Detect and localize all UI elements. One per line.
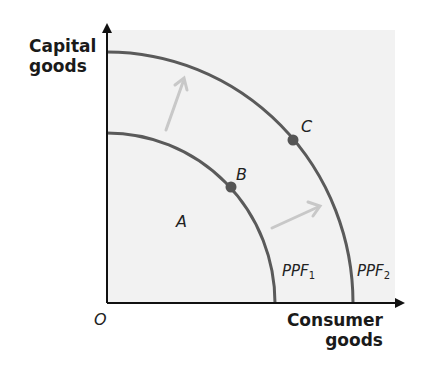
ppf1-label: PPF1 <box>282 262 315 281</box>
plot-background <box>107 30 395 303</box>
point-b-label: B <box>236 165 247 184</box>
y-axis-title-line2: goods <box>29 56 96 76</box>
x-axis-title-line2: goods <box>287 330 383 350</box>
ppf2-label-sub: 2 <box>384 270 390 281</box>
point-c-label: C <box>301 117 312 136</box>
y-axis-title: Capital goods <box>29 36 96 76</box>
point-b-marker <box>226 182 237 193</box>
y-axis-title-line1: Capital <box>29 36 96 56</box>
ppf1-label-main: PPF <box>282 262 309 280</box>
ppf2-label-main: PPF <box>357 262 384 280</box>
point-a-label: A <box>176 212 187 231</box>
x-axis-title-line1: Consumer <box>287 310 383 330</box>
point-c-marker <box>288 135 299 146</box>
ppf2-label: PPF2 <box>357 262 390 281</box>
x-axis-title: Consumer goods <box>287 310 383 350</box>
origin-label: O <box>94 310 107 329</box>
ppf1-label-sub: 1 <box>309 270 315 281</box>
